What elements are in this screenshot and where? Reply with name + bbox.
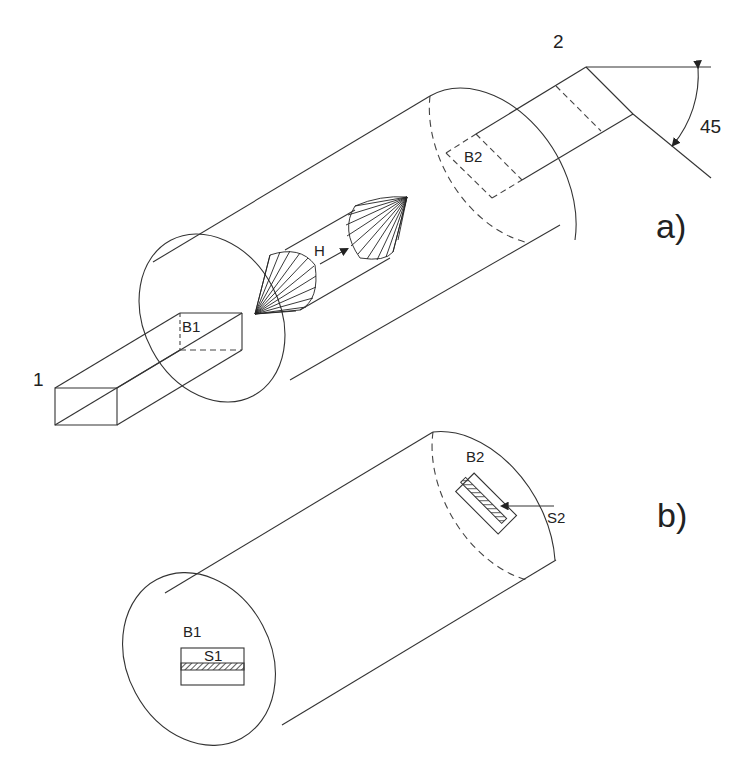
angle-label: 45 bbox=[700, 116, 721, 137]
h-field-label: H bbox=[314, 242, 325, 259]
port-1-label: 1 bbox=[33, 369, 44, 390]
waveguide-port-1 bbox=[55, 313, 242, 425]
cone-left bbox=[255, 251, 316, 314]
waveguide-port-2 bbox=[446, 67, 711, 198]
box-b2-label: B2 bbox=[464, 148, 482, 165]
slot-s2-label: S2 bbox=[547, 509, 565, 526]
box-b2-slot-s2 bbox=[454, 471, 517, 534]
cylinder-b bbox=[93, 432, 556, 773]
box-b1-label: B1 bbox=[182, 318, 200, 335]
cylinder-a bbox=[111, 88, 576, 428]
port-2-label: 2 bbox=[553, 31, 564, 52]
box-b2-label-b: B2 bbox=[466, 448, 484, 465]
panel-b-label: b) bbox=[657, 496, 687, 534]
slot-s1-label: S1 bbox=[204, 647, 222, 664]
box-b1-label-b: B1 bbox=[183, 623, 201, 640]
panel-a-label: a) bbox=[656, 207, 686, 245]
panel-a: 1 2 B1 B2 H 45 a) bbox=[33, 31, 721, 428]
panel-b: B1 S1 B2 S2 b) bbox=[93, 432, 687, 773]
